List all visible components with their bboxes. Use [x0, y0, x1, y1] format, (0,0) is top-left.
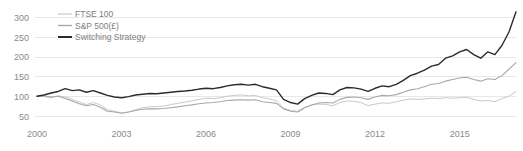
x-axis-ticks: 200020032006200920122015	[27, 129, 470, 139]
y-axis-tick-label: 200	[14, 52, 29, 62]
x-axis-tick-label: 2009	[281, 129, 301, 139]
y-axis-tick-label: 50	[19, 112, 29, 122]
series-line	[37, 63, 516, 114]
x-axis-tick-label: 2015	[450, 129, 470, 139]
x-axis-tick-label: 2006	[196, 129, 216, 139]
y-axis-tick-label: 150	[14, 72, 29, 82]
series-line	[37, 91, 516, 112]
y-axis-tick-label: 100	[14, 92, 29, 102]
y-axis-tick-label: 300	[14, 13, 29, 23]
x-axis-tick-label: 2000	[27, 129, 47, 139]
legend-label: Switching Strategy	[75, 32, 146, 42]
legend-label: S&P 500(£)	[75, 21, 119, 31]
y-axis-tick-label: 250	[14, 33, 29, 43]
x-axis-tick-label: 2012	[365, 129, 385, 139]
chart-canvas: 5010015020025030020002003200620092012201…	[0, 0, 523, 151]
x-axis-tick-label: 2003	[112, 129, 132, 139]
line-chart: 5010015020025030020002003200620092012201…	[0, 0, 523, 151]
legend-label: FTSE 100	[75, 9, 114, 19]
legend: FTSE 100S&P 500(£)Switching Strategy	[58, 9, 146, 42]
